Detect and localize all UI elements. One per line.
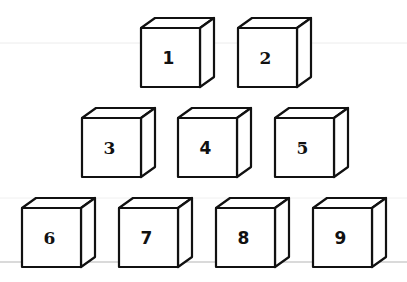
cube-5: 5 — [275, 108, 348, 177]
cube-number-label: 7 — [141, 228, 153, 248]
cube-6: 6 — [22, 198, 95, 267]
cube-side-face — [297, 18, 311, 87]
cube-4: 4 — [178, 108, 251, 177]
cube-number-label: 2 — [260, 48, 272, 68]
cube-side-face — [334, 108, 348, 177]
cube-number-label: 9 — [335, 228, 347, 248]
cube-number-label: 4 — [200, 138, 212, 158]
cube-side-face — [237, 108, 251, 177]
cube-side-face — [81, 198, 95, 267]
cube-7: 7 — [119, 198, 192, 267]
cube-side-face — [178, 198, 192, 267]
cube-side-face — [200, 18, 214, 87]
cube-number-label: 1 — [163, 48, 175, 68]
cube-1: 1 — [141, 18, 214, 87]
cube-side-face — [275, 198, 289, 267]
cube-8: 8 — [216, 198, 289, 267]
cube-2: 2 — [238, 18, 311, 87]
cube-number-label: 6 — [44, 228, 56, 248]
cube-side-face — [372, 198, 386, 267]
cube-number-label: 8 — [238, 228, 250, 248]
cube-number-label: 3 — [104, 138, 116, 158]
cube-side-face — [141, 108, 155, 177]
cube-9: 9 — [313, 198, 386, 267]
cube-number-label: 5 — [297, 138, 309, 158]
cube-diagram: 123456789 — [0, 0, 407, 282]
cube-3: 3 — [82, 108, 155, 177]
